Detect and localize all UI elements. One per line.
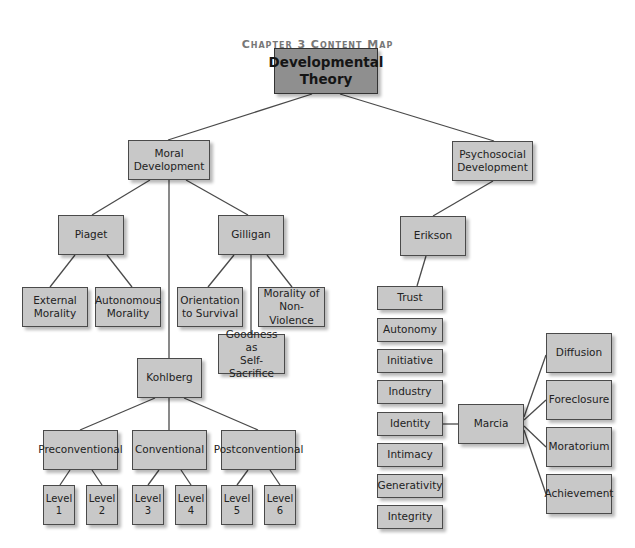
- connector-line: [267, 255, 292, 287]
- connector-line: [524, 430, 546, 494]
- node-level6: Level 6: [264, 485, 296, 525]
- connector-line: [148, 470, 159, 485]
- node-preconventional: Preconventional: [43, 430, 118, 470]
- connector-line: [168, 94, 312, 140]
- node-piaget: Piaget: [58, 215, 124, 255]
- node-autonomous: Autonomous Morality: [95, 287, 161, 327]
- node-orientation: Orientation to Survival: [177, 287, 243, 327]
- connector-line: [524, 355, 546, 417]
- node-intimacy: Intimacy: [377, 443, 443, 467]
- node-conventional: Conventional: [132, 430, 207, 470]
- connector-line: [50, 255, 75, 287]
- connector-line: [92, 180, 150, 215]
- node-goodness: Goodness as Self-Sacrifice: [218, 334, 285, 374]
- connector-line: [60, 470, 70, 485]
- node-identity: Identity: [377, 412, 443, 436]
- node-industry: Industry: [377, 380, 443, 404]
- connector-line: [417, 256, 426, 286]
- node-erikson: Erikson: [400, 216, 466, 256]
- node-trust: Trust: [377, 286, 443, 310]
- connector-line: [237, 470, 248, 485]
- connector-line: [340, 94, 494, 141]
- node-level2: Level 2: [86, 485, 118, 525]
- node-generativity: Generativity: [377, 474, 443, 498]
- node-level4: Level 4: [175, 485, 207, 525]
- node-integrity: Integrity: [377, 505, 443, 529]
- node-foreclosure: Foreclosure: [546, 380, 612, 420]
- node-nonviolence: Morality of Non-Violence: [258, 287, 325, 327]
- node-external: External Morality: [22, 287, 88, 327]
- node-initiative: Initiative: [377, 349, 443, 373]
- connector-line: [270, 470, 280, 485]
- connector-line: [524, 426, 546, 447]
- node-level1: Level 1: [43, 485, 75, 525]
- connector-line: [107, 255, 132, 287]
- connector-line: [181, 470, 191, 485]
- node-postconventional: Postconventional: [221, 430, 296, 470]
- connector-line: [80, 398, 155, 430]
- connector-line: [186, 180, 248, 215]
- node-marcia: Marcia: [458, 404, 524, 444]
- node-root: Developmental Theory: [274, 48, 378, 94]
- connector-line: [433, 181, 493, 216]
- node-moral: Moral Development: [128, 140, 210, 180]
- connector-line: [524, 400, 546, 420]
- connector-line: [92, 470, 102, 485]
- node-kohlberg: Kohlberg: [137, 358, 202, 398]
- node-level3: Level 3: [132, 485, 164, 525]
- connector-line: [184, 398, 258, 430]
- node-autonomy: Autonomy: [377, 318, 443, 342]
- connector-line: [208, 255, 234, 287]
- node-gilligan: Gilligan: [218, 215, 284, 255]
- node-diffusion: Diffusion: [546, 333, 612, 373]
- node-moratorium: Moratorium: [546, 427, 612, 467]
- node-level5: Level 5: [221, 485, 253, 525]
- node-psychosocial: Psychosocial Development: [452, 141, 533, 181]
- node-achievement: Achievement: [546, 474, 612, 514]
